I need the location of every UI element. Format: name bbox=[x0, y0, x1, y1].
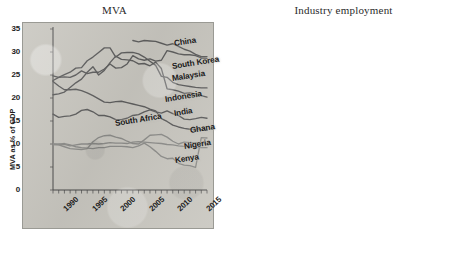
y-tick-label: 20 bbox=[12, 93, 21, 102]
figure-root: MVA MVA as % of GDP 05101520253035 19901… bbox=[0, 0, 458, 257]
y-tick-label: 15 bbox=[12, 116, 21, 125]
y-tick-label: 30 bbox=[12, 47, 21, 56]
y-tick-label: 5 bbox=[16, 162, 20, 171]
chart-title-mva: MVA bbox=[0, 4, 229, 16]
chart-title-industry-employment: Industry employment bbox=[229, 4, 458, 16]
y-axis-ticks-mva: 05101520253035 bbox=[0, 22, 20, 227]
y-tick-label: 25 bbox=[12, 70, 21, 79]
y-tick-label: 10 bbox=[12, 139, 21, 148]
chart-panel-mva: MVA MVA as % of GDP 05101520253035 19901… bbox=[0, 0, 229, 257]
y-tick-label: 0 bbox=[16, 185, 20, 194]
y-tick-label: 35 bbox=[12, 24, 21, 33]
chart-panel-industry-employment: Industry employment Employment in indust… bbox=[229, 0, 458, 257]
